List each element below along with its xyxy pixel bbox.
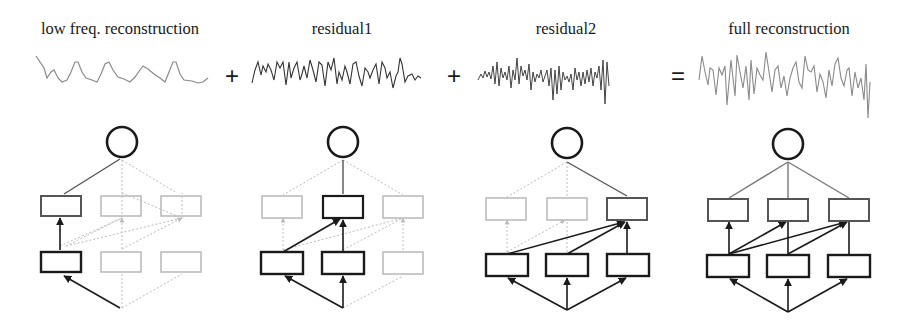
network-panel-residual1 — [261, 127, 423, 308]
node-l0-0 — [41, 252, 81, 272]
output-node — [107, 127, 137, 157]
network-panel-residual2 — [486, 128, 649, 310]
network-panel-low-freq — [41, 127, 201, 308]
network-panel-full — [707, 129, 870, 312]
network-diagrams — [0, 0, 904, 333]
node-l1-0 — [41, 196, 81, 216]
